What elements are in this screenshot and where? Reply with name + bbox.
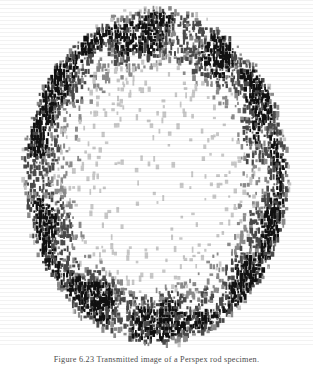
halftone-scan-plate: [0, 0, 313, 348]
figure-page: Figure 6.23 Transmitted image of a Persp…: [0, 0, 313, 365]
figure-caption-text: Figure 6.23 Transmitted image of a Persp…: [0, 355, 313, 365]
scan-image: [0, 0, 313, 348]
figure-caption: Figure 6.23 Transmitted image of a Persp…: [0, 355, 313, 365]
